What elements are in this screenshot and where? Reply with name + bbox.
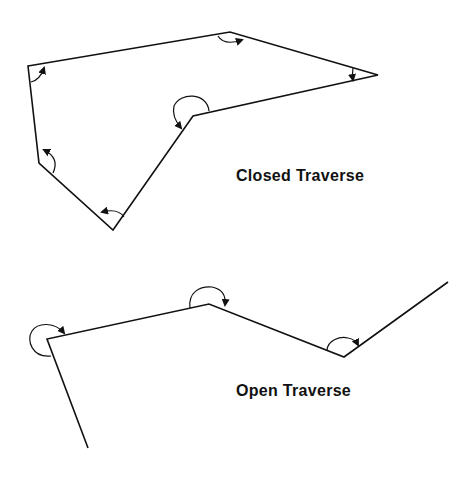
open-traverse-label: Open Traverse xyxy=(236,382,351,400)
angle-arc-icon xyxy=(218,36,242,42)
closed-traverse-polygon xyxy=(28,32,378,230)
angle-arc-icon xyxy=(173,96,209,128)
angle-arc-icon xyxy=(102,211,124,217)
traverse-diagram xyxy=(0,0,474,477)
closed-traverse-label: Closed Traverse xyxy=(236,167,364,185)
closed-traverse xyxy=(28,32,378,230)
angle-arc-icon xyxy=(353,68,354,80)
angle-arc-icon xyxy=(31,68,44,82)
open-traverse xyxy=(30,282,448,448)
open-traverse-polyline xyxy=(47,282,448,448)
angle-arc-icon xyxy=(327,338,358,351)
